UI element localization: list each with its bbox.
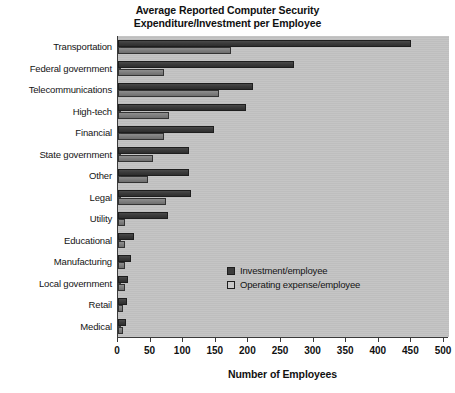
bar-row: High-tech [0,101,455,123]
bar-row: Federal government [0,58,455,80]
bar-row: Retail [0,294,455,316]
x-axis-tick [345,337,346,342]
bar-operating-expense [118,90,219,97]
bar-operating-expense [118,176,148,183]
y-axis-tick [117,262,121,263]
bar-operating-expense [118,327,123,334]
bar-row: Educational [0,230,455,252]
y-axis-tick [117,90,121,91]
x-axis-tick [182,337,183,342]
x-axis-tick [410,337,411,342]
bar-operating-expense [118,155,153,162]
category-label: Local government [0,273,112,295]
x-axis-tick [313,337,314,342]
bar-investment [118,83,253,90]
y-axis-tick [117,326,121,327]
category-label: High-tech [0,101,112,123]
x-axis-line [117,337,448,338]
chart-title-line-2: Expenditure/Investment per Employee [0,17,455,30]
legend-label-operating: Operating expense/employee [240,278,360,292]
bar-operating-expense [118,219,125,226]
category-label: Manufacturing [0,251,112,273]
y-axis-tick [117,68,121,69]
chart-legend: Investment/employee Operating expense/em… [227,264,360,292]
x-axis-tick [443,337,444,342]
chart-title: Average Reported Computer Security Expen… [0,4,455,30]
bar-investment [118,169,189,176]
bar-investment [118,190,191,197]
y-axis-tick [117,240,121,241]
bar-row: Medical [0,316,455,338]
x-axis-tick [117,337,118,342]
y-axis-tick [117,219,121,220]
category-label: Medical [0,316,112,338]
category-label: Other [0,165,112,187]
y-axis-tick [117,154,121,155]
bar-operating-expense [118,133,164,140]
category-label: Federal government [0,58,112,80]
y-axis-tick [117,176,121,177]
bar-investment [118,298,127,305]
bar-operating-expense [118,69,164,76]
bar-investment [118,104,246,111]
bar-operating-expense [118,47,231,54]
category-label: Educational [0,230,112,252]
x-axis-tick [378,337,379,342]
y-axis-tick [117,283,121,284]
bar-row: Telecommunications [0,79,455,101]
category-label: Telecommunications [0,79,112,101]
bar-investment [118,276,128,283]
y-axis-tick [117,111,121,112]
bar-row: Other [0,165,455,187]
bar-investment [118,126,214,133]
bar-investment [118,233,134,240]
y-axis-tick [117,305,121,306]
y-axis-tick [117,197,121,198]
bar-investment [118,147,189,154]
category-label: Legal [0,187,112,209]
bar-operating-expense [118,112,169,119]
bar-operating-expense [118,198,166,205]
x-axis-tick [280,337,281,342]
bar-row: Legal [0,187,455,209]
category-label: Financial [0,122,112,144]
bar-row: Transportation [0,36,455,58]
x-axis-tick [247,337,248,342]
bar-operating-expense [118,284,125,291]
category-label: State government [0,144,112,166]
legend-swatch-investment-icon [227,267,235,275]
bar-investment [118,61,294,68]
x-axis-title: Number of Employees [117,368,448,380]
bar-row: State government [0,144,455,166]
bar-operating-expense [118,262,125,269]
bar-row: Financial [0,122,455,144]
y-axis-tick [117,47,121,48]
bar-operating-expense [118,305,123,312]
y-axis-tick [117,133,121,134]
category-label: Transportation [0,36,112,58]
bar-investment [118,212,168,219]
bar-investment [118,255,131,262]
bar-row: Utility [0,208,455,230]
bar-investment [118,319,126,326]
x-axis-tick [150,337,151,342]
legend-item-investment: Investment/employee [227,264,360,278]
legend-swatch-operating-icon [227,281,235,289]
legend-label-investment: Investment/employee [240,264,327,278]
bar-investment [118,40,411,47]
legend-item-operating: Operating expense/employee [227,278,360,292]
category-label: Utility [0,208,112,230]
bar-operating-expense [118,241,125,248]
x-axis-tick-label: 500 [423,345,455,356]
chart-title-line-1: Average Reported Computer Security [0,4,455,17]
category-label: Retail [0,294,112,316]
x-axis-tick [215,337,216,342]
